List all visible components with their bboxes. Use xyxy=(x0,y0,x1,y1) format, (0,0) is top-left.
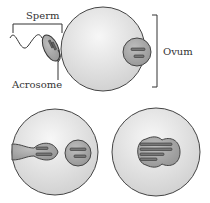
ovum-top xyxy=(61,7,151,91)
ovum-fusion xyxy=(112,108,200,196)
sperm-label: Sperm xyxy=(26,10,60,21)
ovum-nucleus xyxy=(123,38,151,66)
ovum-bracket xyxy=(152,15,157,87)
ovum-label: Ovum xyxy=(163,46,193,57)
sperm xyxy=(10,32,63,63)
sperm-bracket xyxy=(13,24,62,33)
diagram-svg: Sperm Acrosome Ovum xyxy=(0,0,210,203)
fertilization-diagram: Sperm Acrosome Ovum xyxy=(0,0,210,203)
acrosome-label: Acrosome xyxy=(11,79,62,90)
ovum-sperm-entry xyxy=(12,109,98,195)
